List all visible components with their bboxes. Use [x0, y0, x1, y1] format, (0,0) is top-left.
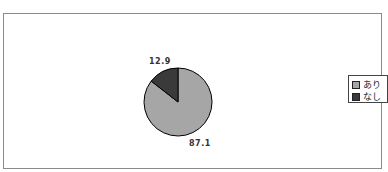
data-label-nashi: 12.9 [149, 57, 171, 66]
chart-area: 12.9 87.1 [3, 13, 382, 169]
legend-swatch-ari [352, 81, 360, 89]
data-label-ari: 87.1 [189, 139, 211, 148]
legend-swatch-nashi [352, 93, 360, 101]
legend: あり なし [348, 75, 388, 103]
pie-slices [144, 68, 212, 136]
legend-item-nashi: なし [352, 90, 381, 103]
legend-label-nashi: なし [363, 90, 381, 103]
